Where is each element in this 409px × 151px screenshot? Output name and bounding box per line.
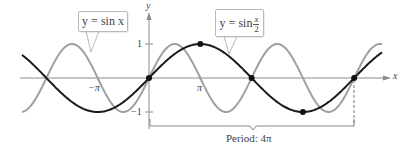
period-label: Period: 4π: [226, 132, 272, 144]
callout-sin-x: y = sin x: [78, 11, 128, 32]
x-axis-arrow-icon: [383, 76, 391, 81]
tick-label-pi: π: [197, 82, 202, 93]
graph: [0, 0, 409, 151]
y-axis-label: y: [146, 0, 150, 11]
tick-label-neg-pi: −π: [88, 82, 100, 93]
tick-label-neg-1: −1: [131, 106, 142, 117]
callout-sin-x-over-2: y = sinx2: [215, 9, 264, 37]
tick-label-1: 1: [137, 38, 142, 49]
period-bracket: [150, 119, 354, 130]
x-axis-label: x: [393, 70, 397, 81]
fraction-x-over-2: x2: [253, 15, 259, 34]
y-axis-arrow-icon: [147, 12, 152, 20]
